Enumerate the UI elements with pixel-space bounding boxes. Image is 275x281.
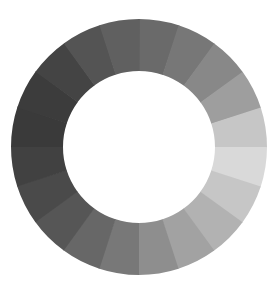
ring-segments — [11, 19, 267, 275]
grayscale-ring-graphic — [0, 0, 275, 281]
